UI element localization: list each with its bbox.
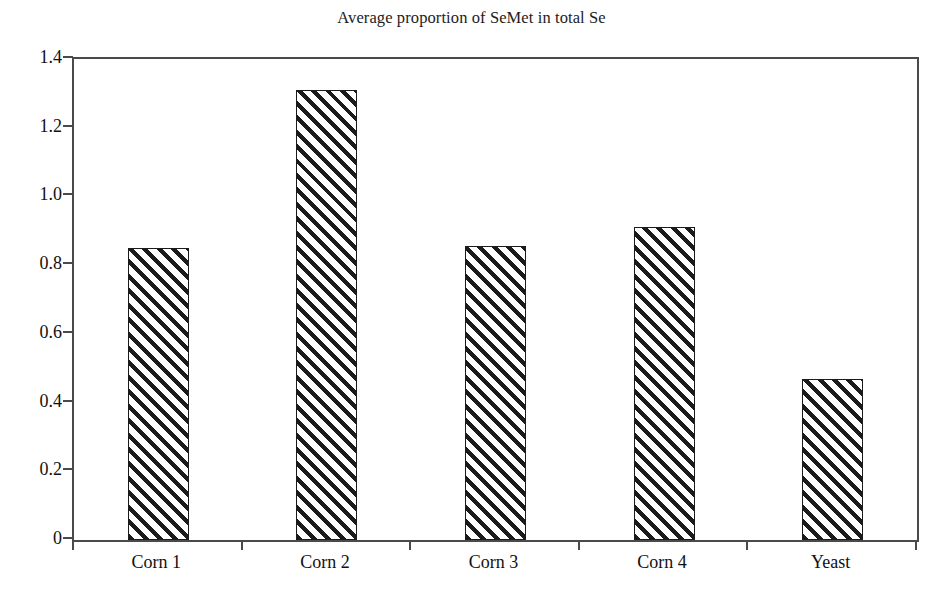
y-axis-tick-label: 1.4 — [40, 47, 63, 68]
bar-yeast — [802, 379, 863, 540]
x-axis-tick-label: Corn 2 — [300, 552, 350, 573]
x-axis-tick-label: Corn 3 — [469, 552, 519, 573]
x-axis-tick-mark — [72, 540, 74, 550]
bar-corn-3 — [465, 246, 526, 540]
x-axis-tick-label: Corn 4 — [637, 552, 687, 573]
x-axis-tick-label: Yeast — [811, 552, 850, 573]
y-axis-tick-label: 0.4 — [40, 390, 63, 411]
y-axis-tick-label: 0.6 — [40, 321, 63, 342]
bar-corn-1 — [128, 248, 189, 540]
y-axis-tick-label: 1.0 — [40, 184, 63, 205]
bars-layer — [74, 59, 917, 540]
y-axis-tick-label: 0.8 — [40, 253, 63, 274]
plot-area — [72, 57, 919, 542]
x-axis-tick-mark — [746, 540, 748, 550]
x-axis-tick-mark — [915, 540, 917, 550]
y-axis-tick-label: 1.2 — [40, 115, 63, 136]
chart-title: Average proportion of SeMet in total Se — [0, 8, 943, 28]
x-axis-tick-mark — [578, 540, 580, 550]
bar-corn-4 — [634, 227, 695, 540]
bar-chart-figure: Average proportion of SeMet in total Se … — [0, 0, 943, 603]
y-axis-tick-label: 0.2 — [40, 459, 63, 480]
y-axis-tick-labels: 00.20.40.60.81.01.21.4 — [0, 57, 62, 538]
x-axis-tick-marks — [72, 540, 917, 552]
x-axis-tick-label: Corn 1 — [132, 552, 182, 573]
x-axis-tick-labels: Corn 1Corn 2Corn 3Corn 4Yeast — [72, 552, 915, 586]
x-axis-tick-mark — [409, 540, 411, 550]
bar-corn-2 — [296, 90, 357, 540]
y-axis-tick-label: 0 — [53, 528, 62, 549]
x-axis-tick-mark — [241, 540, 243, 550]
